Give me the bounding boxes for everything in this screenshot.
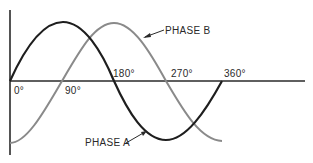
phase-a-arrowhead-icon bbox=[141, 131, 147, 136]
phase-b-label: PHASE B bbox=[165, 25, 210, 36]
tick-label-360: 360° bbox=[224, 68, 246, 79]
phase-b-arrowhead-icon bbox=[143, 33, 151, 38]
tick-label-180: 180° bbox=[113, 68, 135, 79]
tick-label-90: 90° bbox=[65, 85, 81, 96]
tick-label-0: 0° bbox=[14, 85, 24, 96]
tick-label-270: 270° bbox=[171, 68, 193, 79]
two-phase-diagram: 0° 90° 180° 270° 360° PHASE B PHASE A bbox=[0, 0, 313, 163]
phase-a-label: PHASE A bbox=[85, 137, 130, 148]
